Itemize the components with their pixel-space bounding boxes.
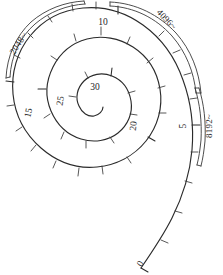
range-label-8192: 8192~ (204, 114, 214, 138)
scale-label-20: 20 (128, 120, 139, 131)
scale-label-30: 30 (90, 82, 100, 92)
spiral-diagram: 0 5 10 15 20 25 30 2048~ 4096~ 8192~ (0, 0, 223, 275)
scale-label-10: 10 (98, 17, 108, 27)
scale-label-5: 5 (178, 123, 188, 128)
scale-label-25: 25 (55, 95, 66, 106)
spiral-scale-figure: 0 5 10 15 20 25 30 2048~ 4096~ 8192~ (0, 0, 223, 275)
